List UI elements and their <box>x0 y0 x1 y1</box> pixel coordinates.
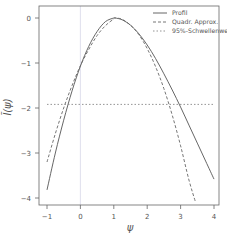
x-tick-label: −1 <box>42 213 52 221</box>
legend-label: 95%-Schwellenwert <box>172 27 227 34</box>
y-tick-label: −4 <box>21 195 32 203</box>
y-tick-label: −3 <box>21 150 31 158</box>
y-tick-label: −1 <box>21 60 31 68</box>
x-tick-label: 1 <box>112 213 116 221</box>
y-tick-label: −2 <box>21 105 31 113</box>
y-tick-label: 0 <box>27 15 31 23</box>
x-tick-label: 0 <box>78 213 82 221</box>
y-axis-label: l̃(ψ) <box>1 98 13 115</box>
legend-label: Quadr. Approx. <box>172 18 218 26</box>
x-axis-label: ψ <box>127 222 134 233</box>
x-tick-label: 4 <box>212 213 217 221</box>
legend-label: Profil <box>172 9 188 16</box>
profile-likelihood-chart: −101234 0−1−2−3−4 ψ l̃(ψ) ProfilQuadr. A… <box>0 0 227 237</box>
x-tick-label: 3 <box>178 213 182 221</box>
background <box>0 0 227 237</box>
x-tick-label: 2 <box>145 213 149 221</box>
